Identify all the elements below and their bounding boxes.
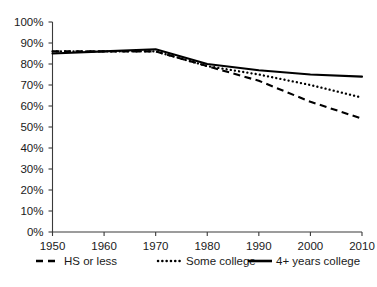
y-tick-label: 0% [27, 226, 44, 238]
x-axis-tick-marks [53, 232, 363, 236]
x-tick-label: 1980 [194, 240, 220, 252]
legend-label: HS or less [64, 255, 117, 267]
y-tick-label: 70% [20, 79, 43, 91]
x-tick-label: 2010 [349, 240, 375, 252]
y-tick-label: 80% [20, 58, 43, 70]
y-tick-label: 20% [20, 184, 43, 196]
y-tick-label: 90% [20, 37, 43, 49]
series-line-4-years-college [53, 49, 363, 76]
y-tick-label: 50% [20, 121, 43, 133]
y-tick-label: 100% [14, 16, 43, 28]
series-lines [53, 49, 363, 118]
y-tick-label: 30% [20, 163, 43, 175]
y-tick-label: 40% [20, 142, 43, 154]
chart-legend: HS or lessSome college4+ years college [36, 255, 360, 267]
x-tick-label: 1990 [246, 240, 272, 252]
x-tick-label: 1970 [143, 240, 169, 252]
x-axis-tick-labels: 1950196019701980199020002010 [40, 240, 375, 252]
x-tick-label: 2000 [298, 240, 324, 252]
x-tick-label: 1950 [40, 240, 66, 252]
y-tick-label: 60% [20, 100, 43, 112]
line-chart: 0%10%20%30%40%50%60%70%80%90%100% 195019… [0, 0, 377, 287]
series-line-hs-or-less [53, 51, 363, 118]
y-axis-tick-labels: 0%10%20%30%40%50%60%70%80%90%100% [14, 16, 43, 238]
chart-container: 0%10%20%30%40%50%60%70%80%90%100% 195019… [0, 0, 377, 287]
legend-label: Some college [186, 255, 256, 267]
y-tick-label: 10% [20, 205, 43, 217]
x-tick-label: 1960 [91, 240, 117, 252]
legend-label: 4+ years college [276, 255, 360, 267]
